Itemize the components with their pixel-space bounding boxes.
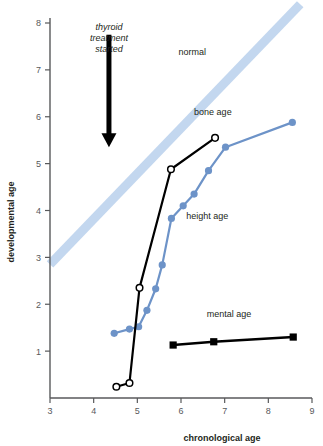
series-mental-age <box>170 333 297 348</box>
data-point-marker <box>289 119 296 126</box>
series-label-mental-age: mental age <box>207 309 252 319</box>
data-point-marker <box>136 285 143 292</box>
x-axis-ticks: 3456789 <box>47 398 314 416</box>
y-tick-label: 4 <box>36 206 41 216</box>
data-point-marker <box>205 167 212 174</box>
annotation-line-3: started <box>95 44 124 54</box>
series-label-height-age: height age <box>186 211 228 221</box>
caption-fragment <box>0 435 323 446</box>
y-tick-label: 1 <box>36 347 41 357</box>
data-point-marker <box>290 333 297 340</box>
data-point-marker <box>113 383 120 390</box>
data-point-marker <box>111 330 118 337</box>
series-label-bone-age: bone age <box>194 107 232 117</box>
data-point-marker <box>159 261 166 268</box>
y-axis-ticks: 12345678 <box>36 18 50 356</box>
data-point-marker <box>143 307 150 314</box>
y-tick-label: 7 <box>36 65 41 75</box>
y-tick-label: 5 <box>36 159 41 169</box>
y-tick-label: 3 <box>36 253 41 263</box>
y-tick-label: 2 <box>36 300 41 310</box>
y-axis-title: developmental age <box>6 181 16 262</box>
data-point-marker <box>222 144 229 151</box>
data-point-marker <box>212 135 219 142</box>
data-point-marker <box>170 341 177 348</box>
x-tick-label: 7 <box>222 406 227 416</box>
x-tick-label: 9 <box>309 406 314 416</box>
data-point-marker <box>168 215 175 222</box>
bone-age-markers <box>113 135 218 391</box>
arrow-head-icon <box>101 133 116 147</box>
series-bone-age <box>113 135 218 391</box>
y-tick-label: 6 <box>36 112 41 122</box>
series-label-normal: normal <box>179 47 207 57</box>
data-point-marker <box>168 166 175 173</box>
x-tick-label: 3 <box>47 406 52 416</box>
chart-canvas: 12345678 3456789 chronological age devel… <box>6 4 315 443</box>
x-tick-label: 5 <box>135 406 140 416</box>
x-tick-label: 6 <box>178 406 183 416</box>
axes: 12345678 3456789 <box>36 18 315 416</box>
data-point-marker <box>152 285 159 292</box>
x-tick-label: 4 <box>91 406 96 416</box>
data-point-marker <box>180 202 187 209</box>
chart-figure: 12345678 3456789 chronological age devel… <box>0 0 323 446</box>
height-age-line <box>114 122 292 333</box>
annotation-line-2: treatment <box>90 33 129 43</box>
mental-age-line <box>173 337 293 345</box>
annotation-line-1: thyroid <box>95 22 123 32</box>
developmental-age-vs-chronological-age-chart: 12345678 3456789 chronological age devel… <box>0 0 323 446</box>
data-point-marker <box>126 380 133 387</box>
data-point-marker <box>191 190 198 197</box>
y-tick-label: 8 <box>36 18 41 28</box>
data-point-marker <box>210 338 217 345</box>
x-tick-label: 8 <box>266 406 271 416</box>
data-point-marker <box>126 325 133 332</box>
